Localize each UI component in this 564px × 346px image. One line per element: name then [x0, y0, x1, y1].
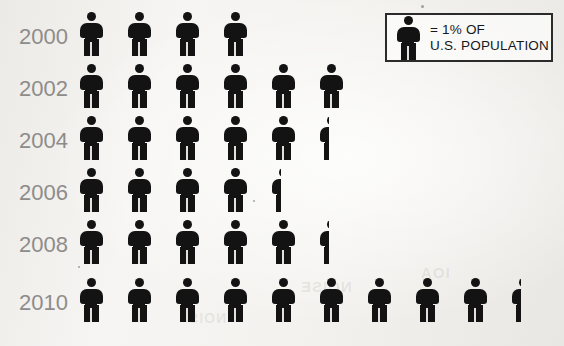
person-icon [222, 64, 248, 108]
person-icon [174, 12, 200, 56]
person-icon [222, 278, 248, 322]
legend-person-icon [395, 16, 421, 60]
person-icon-crotch [378, 308, 380, 322]
legend-text: = 1% OF U.S. POPULATION [430, 22, 549, 54]
person-icon-crotch [234, 42, 236, 56]
person-icon [126, 12, 152, 56]
person-icon [174, 168, 200, 212]
person-icon-crotch [426, 308, 428, 322]
person-icon [126, 116, 152, 160]
picto-row-2010 [78, 278, 548, 322]
year-label-2000: 2000 [0, 26, 68, 48]
person-icon [270, 220, 296, 264]
person-icon [78, 12, 104, 56]
person-icon [126, 168, 152, 212]
person-icon [270, 116, 296, 160]
person-icon-crotch [90, 198, 92, 212]
person-icon [270, 64, 296, 108]
year-label-2008: 2008 [0, 234, 68, 256]
person-icon [222, 168, 248, 212]
person-icon [126, 220, 152, 264]
person-icon [222, 116, 248, 160]
person-icon [78, 64, 104, 108]
pictogram-chart: NOISE IOA NOIS 2000 2002 2004 2006 2008 … [0, 0, 564, 346]
person-icon [78, 168, 104, 212]
legend-box: = 1% OF U.S. POPULATION [385, 13, 553, 62]
person-icon-crotch [138, 198, 140, 212]
person-icon-crotch [186, 198, 188, 212]
person-icon [126, 64, 152, 108]
person-icon [222, 12, 248, 56]
legend-population-line: U.S. POPULATION [430, 38, 549, 54]
person-icon-half [510, 278, 521, 322]
person-icon-crotch [138, 308, 140, 322]
year-label-2004: 2004 [0, 130, 68, 152]
person-icon [174, 278, 200, 322]
person-icon-crotch [282, 250, 284, 264]
person-icon-crotch [186, 250, 188, 264]
year-label-2010: 2010 [0, 292, 68, 314]
person-icon [126, 278, 152, 322]
person-icon-crotch [234, 94, 236, 108]
person-icon-half [318, 220, 329, 264]
person-icon [78, 220, 104, 264]
person-icon-crotch [474, 308, 476, 322]
person-icon-crotch [234, 198, 236, 212]
person-icon [174, 116, 200, 160]
picto-row-2002 [78, 64, 548, 108]
person-icon-half [318, 116, 329, 160]
person-icon [318, 278, 344, 322]
person-icon [174, 64, 200, 108]
person-icon-crotch [138, 250, 140, 264]
person-icon-leg-l [516, 305, 522, 322]
person-icon-leg-gap [407, 46, 409, 60]
person-icon [222, 220, 248, 264]
person-icon [78, 278, 104, 322]
person-icon-crotch [330, 94, 332, 108]
person-icon [78, 116, 104, 160]
person-icon-crotch [330, 308, 332, 322]
person-icon-crotch [234, 146, 236, 160]
person-icon-crotch [186, 308, 188, 322]
person-icon-crotch [90, 146, 92, 160]
person-icon-crotch [138, 94, 140, 108]
person-icon-leg-l [324, 143, 330, 160]
person-icon-crotch [234, 250, 236, 264]
person-icon-crotch [138, 146, 140, 160]
person-icon-crotch [90, 94, 92, 108]
picto-row-2004 [78, 116, 548, 160]
picto-row-2006 [78, 168, 548, 212]
person-icon [366, 278, 392, 322]
person-icon-crotch [186, 94, 188, 108]
scan-speck [78, 266, 80, 268]
person-icon-crotch [282, 94, 284, 108]
year-label-2006: 2006 [0, 182, 68, 204]
person-icon-leg-l [276, 195, 282, 212]
person-icon-crotch [282, 308, 284, 322]
person-icon-crotch [90, 308, 92, 322]
scan-speck [421, 5, 424, 8]
person-icon [462, 278, 488, 322]
person-icon-crotch [234, 308, 236, 322]
person-icon [318, 64, 344, 108]
person-icon-half [270, 168, 281, 212]
person-icon-crotch [186, 146, 188, 160]
year-label-2002: 2002 [0, 78, 68, 100]
person-icon-crotch [90, 250, 92, 264]
person-icon [270, 278, 296, 322]
legend-equals-line: = 1% OF [430, 22, 549, 38]
person-icon-leg-l [324, 247, 330, 264]
picto-row-2008 [78, 220, 548, 264]
person-icon-crotch [282, 146, 284, 160]
person-icon [174, 220, 200, 264]
person-icon-crotch [90, 42, 92, 56]
person-icon-crotch [186, 42, 188, 56]
person-icon [414, 278, 440, 322]
person-icon-crotch [138, 42, 140, 56]
